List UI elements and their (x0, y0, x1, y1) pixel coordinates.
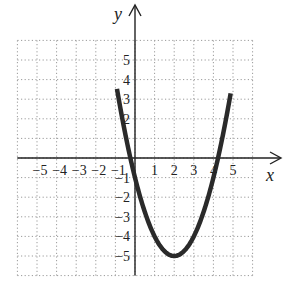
y-tick-label: 2 (123, 112, 130, 127)
parabola-chart: xy−5−4−3−2−1123455432−1−2−3−4−5 (0, 0, 289, 289)
x-tick-label: 3 (190, 163, 197, 178)
x-tick-label: −4 (52, 163, 67, 178)
x-tick-label: 4 (210, 163, 217, 178)
y-tick-label: 4 (123, 73, 130, 88)
y-tick-label: −5 (115, 249, 130, 264)
y-tick-label: −2 (115, 190, 130, 205)
x-tick-label: 2 (171, 163, 178, 178)
y-tick-label: 3 (123, 92, 130, 107)
x-tick-label: −2 (91, 163, 106, 178)
y-tick-label: −3 (115, 210, 130, 225)
x-tick-label: −5 (33, 163, 48, 178)
x-tick-label: 5 (230, 163, 237, 178)
y-tick-label: −4 (115, 229, 130, 244)
y-axis-label: y (112, 4, 122, 24)
x-tick-label: −3 (72, 163, 87, 178)
y-tick-label: 5 (123, 53, 130, 68)
x-axis-label: x (265, 165, 274, 185)
y-tick-label: −1 (115, 171, 130, 186)
tick-labels: xy−5−4−3−2−1123455432−1−2−3−4−5 (33, 4, 274, 264)
x-tick-label: 1 (151, 163, 158, 178)
